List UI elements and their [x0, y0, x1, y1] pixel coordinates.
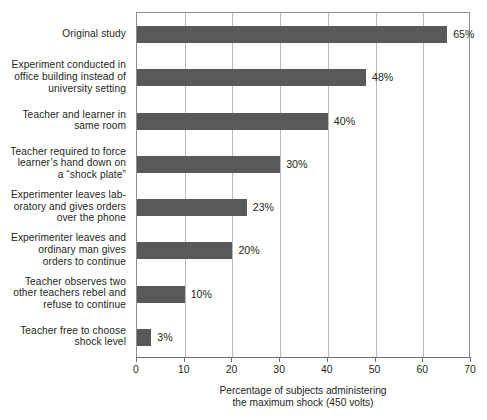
- bar-value-label: 3%: [157, 329, 172, 346]
- category-label: Teacher required to force learner’s hand…: [0, 146, 126, 181]
- gridline: [185, 13, 186, 357]
- gridline: [328, 13, 329, 357]
- bar-value-label: 40%: [334, 113, 355, 130]
- plot-area: 65%48%40%30%23%20%10%3%: [136, 12, 470, 358]
- x-axis-title: Percentage of subjects administering the…: [136, 385, 470, 410]
- category-label: Teacher observes two other teachers rebe…: [0, 276, 126, 311]
- bar: [137, 286, 185, 303]
- x-axis-tick-label: 30: [273, 364, 285, 375]
- gridline: [280, 13, 281, 357]
- bar: [137, 69, 366, 86]
- bar-value-label: 20%: [238, 242, 259, 259]
- category-label: Experimenter leaves lab- oratory and giv…: [0, 189, 126, 224]
- x-axis-tick-label: 0: [133, 364, 139, 375]
- x-axis-tick: [279, 357, 280, 362]
- category-label: Experiment conducted in office building …: [0, 59, 126, 94]
- x-axis-tick-label: 20: [226, 364, 238, 375]
- bar-value-label: 30%: [286, 156, 307, 173]
- x-axis-tick-label: 60: [417, 364, 429, 375]
- category-label: Teacher free to choose shock level: [0, 325, 126, 348]
- category-label: Experimenter leaves and ordinary man giv…: [0, 232, 126, 267]
- bar: [137, 199, 247, 216]
- bar: [137, 329, 151, 346]
- gridline: [232, 13, 233, 357]
- bar: [137, 242, 232, 259]
- category-label-column: Original studyExperiment conducted in of…: [0, 12, 131, 358]
- x-axis-tick: [375, 357, 376, 362]
- bar: [137, 113, 328, 130]
- x-axis-tick: [422, 357, 423, 362]
- x-axis-tick-label: 70: [464, 364, 476, 375]
- x-axis-tick: [231, 357, 232, 362]
- bar-value-label: 65%: [453, 26, 474, 43]
- bar-value-label: 10%: [191, 286, 212, 303]
- bar-value-label: 48%: [372, 69, 393, 86]
- bar: [137, 26, 447, 43]
- x-axis-tick-label: 40: [321, 364, 333, 375]
- x-axis-tick-label: 10: [178, 364, 190, 375]
- bar-chart: Original studyExperiment conducted in of…: [0, 0, 487, 420]
- bar: [137, 156, 280, 173]
- gridline: [423, 13, 424, 357]
- category-label: Original study: [0, 28, 126, 40]
- x-axis-tick: [184, 357, 185, 362]
- x-axis-tick-label: 50: [369, 364, 381, 375]
- x-axis-tick: [136, 357, 137, 362]
- category-label: Teacher and learner in same room: [0, 109, 126, 132]
- x-axis-tick: [470, 357, 471, 362]
- x-axis: 010203040506070: [136, 357, 470, 358]
- x-axis-tick: [327, 357, 328, 362]
- gridline: [376, 13, 377, 357]
- bar-value-label: 23%: [253, 199, 274, 216]
